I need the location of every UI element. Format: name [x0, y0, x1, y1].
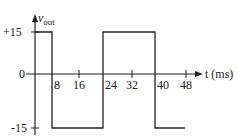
y-tick-label-plus15: +15	[3, 25, 22, 39]
x-tick-label-16: 16	[73, 78, 85, 92]
y-axis-label: vout	[38, 11, 55, 27]
x-tick-label-48: 48	[180, 78, 192, 92]
x-tick-label-24: 24	[105, 78, 117, 92]
x-tick-label-8: 8	[54, 78, 60, 92]
waveform-diagram: vout +15 0 -15 8 16 24 32 40 48 t (ms)	[0, 0, 237, 140]
x-axis-arrow-icon	[195, 71, 203, 77]
y-tick-label-0: 0	[19, 67, 25, 81]
x-axis-label: t (ms)	[205, 67, 233, 81]
x-tick-label-32: 32	[126, 78, 138, 92]
y-tick-label-minus15: -15	[11, 121, 27, 135]
x-tick-label-40: 40	[157, 78, 169, 92]
